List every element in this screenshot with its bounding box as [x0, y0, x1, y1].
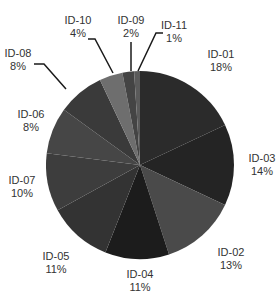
label-id06: ID-06 8% — [18, 108, 45, 134]
label-id03: ID-03 14% — [249, 152, 276, 178]
label-name: ID-07 — [9, 174, 36, 187]
label-pct: 8% — [18, 121, 45, 134]
label-name: ID-11 — [161, 19, 187, 32]
label-id01: ID-01 18% — [208, 48, 235, 74]
label-id09: ID-09 2% — [118, 14, 145, 40]
label-pct: 13% — [218, 259, 245, 272]
label-name: ID-09 — [118, 14, 145, 27]
leader-line-id08 — [34, 64, 66, 89]
label-pct: 10% — [9, 187, 36, 200]
pie-slices — [46, 71, 234, 259]
label-pct: 11% — [127, 281, 154, 294]
label-name: ID-03 — [249, 152, 276, 165]
label-pct: 2% — [118, 27, 145, 40]
label-name: ID-04 — [127, 268, 154, 281]
label-id08: ID-08 8% — [5, 47, 32, 73]
label-name: ID-10 — [65, 14, 92, 27]
label-pct: 8% — [5, 60, 32, 73]
label-pct: 14% — [249, 165, 276, 178]
label-name: ID-01 — [208, 48, 235, 61]
label-id10: ID-10 4% — [65, 14, 92, 40]
label-pct: 1% — [161, 32, 187, 45]
label-id07: ID-07 10% — [9, 174, 36, 200]
label-pct: 4% — [65, 27, 92, 40]
label-name: ID-05 — [43, 250, 70, 263]
label-name: ID-06 — [18, 108, 45, 121]
label-pct: 11% — [43, 263, 70, 276]
label-id11: ID-11 1% — [161, 19, 187, 45]
label-pct: 18% — [208, 61, 235, 74]
label-id04: ID-04 11% — [127, 268, 154, 294]
label-id05: ID-05 11% — [43, 250, 70, 276]
leader-line-id10 — [88, 39, 113, 73]
label-name: ID-08 — [5, 47, 32, 60]
label-name: ID-02 — [218, 246, 245, 259]
label-id02: ID-02 13% — [218, 246, 245, 272]
